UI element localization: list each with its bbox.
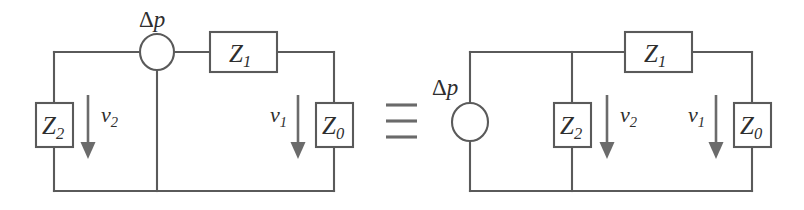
z0-sub: 0 xyxy=(336,124,344,143)
flow-arrow-v1 xyxy=(709,95,724,159)
z2-sub: 2 xyxy=(574,124,582,143)
left-impedance-z0-label: Z0 xyxy=(322,113,344,143)
v2-sub: 2 xyxy=(630,114,637,130)
z2-sub: 2 xyxy=(56,124,64,143)
pressure-source-symbol xyxy=(140,34,174,70)
z2-base: Z xyxy=(42,112,56,139)
right-impedance-z0-label: Z0 xyxy=(740,113,762,143)
left-flow-v2-label: v2 xyxy=(101,104,118,129)
v1-base: v xyxy=(688,102,698,127)
left-source-label-delta-p: Δp xyxy=(139,8,165,31)
right-source-label-delta-p: Δp xyxy=(432,76,458,99)
v1-base: v xyxy=(270,102,280,127)
v1-sub: 1 xyxy=(698,114,705,130)
flow-arrow-v2 xyxy=(600,95,615,159)
p-glyph: p xyxy=(154,7,166,32)
equivalence-symbol xyxy=(386,105,417,137)
delta-glyph: Δ xyxy=(432,75,447,100)
z2-base: Z xyxy=(560,112,574,139)
z1-base: Z xyxy=(229,40,243,67)
z0-base: Z xyxy=(740,112,754,139)
z0-sub: 0 xyxy=(754,124,762,143)
circuit-canvas xyxy=(0,0,804,210)
p-glyph: p xyxy=(447,75,459,100)
v2-base: v xyxy=(101,102,111,127)
circuit-equivalence-figure: Δp Z2 Z1 Z0 v2 v1 Δp Z2 Z1 Z0 v2 v1 xyxy=(0,0,804,210)
v2-base: v xyxy=(620,102,630,127)
left-circuit xyxy=(36,32,353,191)
z1-sub: 1 xyxy=(243,52,251,71)
v1-sub: 1 xyxy=(280,114,287,130)
right-flow-v1-label: v1 xyxy=(688,104,705,129)
left-impedance-z1-label: Z1 xyxy=(229,41,251,71)
flow-arrow-v2 xyxy=(81,95,96,159)
delta-glyph: Δ xyxy=(139,7,154,32)
z0-base: Z xyxy=(322,112,336,139)
right-impedance-z1-label: Z1 xyxy=(644,41,666,71)
z1-base: Z xyxy=(644,40,658,67)
left-impedance-z2-label: Z2 xyxy=(42,113,64,143)
left-flow-v1-label: v1 xyxy=(270,104,287,129)
right-impedance-z2-label: Z2 xyxy=(560,113,582,143)
z1-sub: 1 xyxy=(658,52,666,71)
flow-arrow-v1 xyxy=(291,95,306,159)
right-flow-v2-label: v2 xyxy=(620,104,637,129)
right-circuit xyxy=(452,32,771,191)
v2-sub: 2 xyxy=(111,114,118,130)
pressure-source-symbol xyxy=(452,103,488,141)
